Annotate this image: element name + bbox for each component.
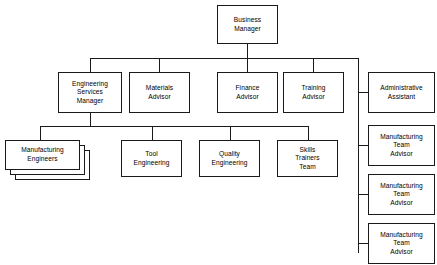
connector-drop-tool-engineering xyxy=(152,126,153,140)
node-finance-advisor[interactable]: Finance Advisor xyxy=(217,72,278,113)
node-administrative-assistant[interactable]: Administrative Assistant xyxy=(368,72,435,113)
connector-right-spine xyxy=(358,58,359,253)
org-chart: Business Manager Engineering Services Ma… xyxy=(0,0,437,265)
node-materials-advisor[interactable]: Materials Advisor xyxy=(129,72,190,113)
node-business-manager[interactable]: Business Manager xyxy=(217,5,278,44)
connector-drop-skills-trainers-team xyxy=(308,126,309,140)
node-manufacturing-team-advisor-2[interactable]: Manufacturing Team Advisor xyxy=(368,174,435,215)
connector-drop-esm-to-level3 xyxy=(90,113,91,126)
connector-drop-quality-engineering xyxy=(230,126,231,140)
node-training-advisor[interactable]: Training Advisor xyxy=(283,72,344,113)
node-manufacturing-team-advisor-3[interactable]: Manufacturing Team Advisor xyxy=(368,223,435,264)
node-manufacturing-team-advisor-1[interactable]: Manufacturing Team Advisor xyxy=(368,125,435,166)
connector-stub-administrative-assistant xyxy=(358,92,368,93)
connector-drop-training-advisor xyxy=(313,58,314,72)
node-quality-engineering[interactable]: Quality Engineering xyxy=(199,140,260,177)
connector-stub-manufacturing-team-advisor-3 xyxy=(358,243,368,244)
connector-root-drop xyxy=(247,44,248,58)
node-engineering-services-manager[interactable]: Engineering Services Manager xyxy=(58,72,122,113)
connector-stub-manufacturing-team-advisor-1 xyxy=(358,145,368,146)
connector-drop-engineering-services-manager xyxy=(90,58,91,72)
connector-level2-bus xyxy=(90,58,358,59)
connector-drop-materials-advisor xyxy=(159,58,160,72)
connector-stub-manufacturing-team-advisor-2 xyxy=(358,194,368,195)
node-skills-trainers-team[interactable]: Skills Trainers Team xyxy=(277,140,338,177)
node-manufacturing-engineers[interactable]: Manufacturing Engineers xyxy=(5,140,80,170)
connector-level3-bus xyxy=(40,126,308,127)
node-tool-engineering[interactable]: Tool Engineering xyxy=(121,140,182,177)
connector-drop-manufacturing-engineers xyxy=(40,126,41,140)
connector-drop-finance-advisor xyxy=(247,58,248,72)
